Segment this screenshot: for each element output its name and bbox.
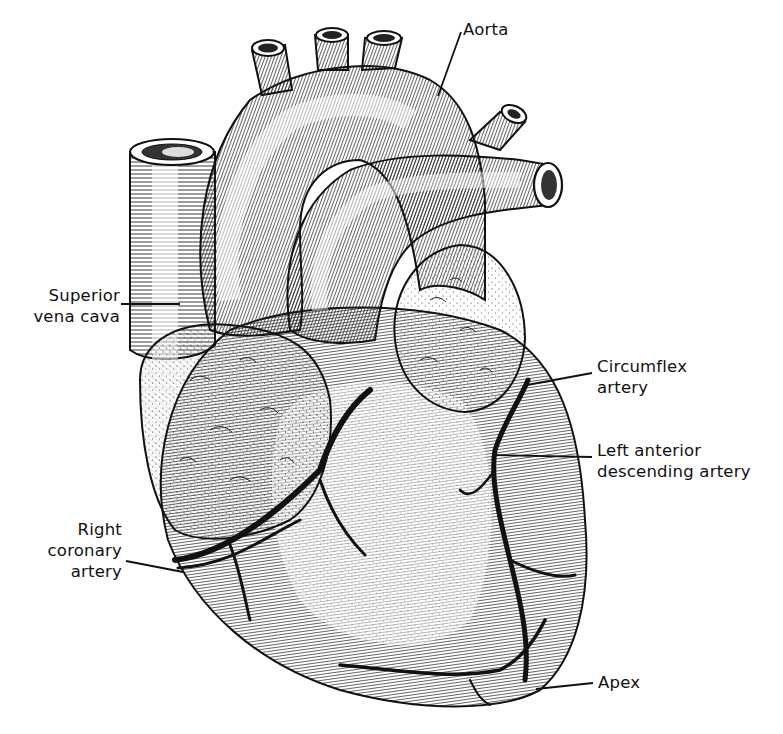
right-atrium — [140, 324, 331, 538]
left-auricle — [394, 245, 525, 412]
circumflex-artery-label: Circumflex artery — [597, 356, 687, 398]
apex-label: Apex — [598, 672, 640, 693]
superior-vena-cava-label: Superior vena cava — [20, 285, 120, 327]
aorta-label: Aorta — [463, 19, 508, 40]
right-coronary-artery-label: Right coronary artery — [40, 519, 122, 582]
heart-diagram: Aorta Superior vena cava Circumflex arte… — [0, 0, 783, 734]
left-anterior-descending-artery-label: Left anterior descending artery — [597, 440, 751, 482]
aorta-leader-line — [438, 32, 461, 96]
